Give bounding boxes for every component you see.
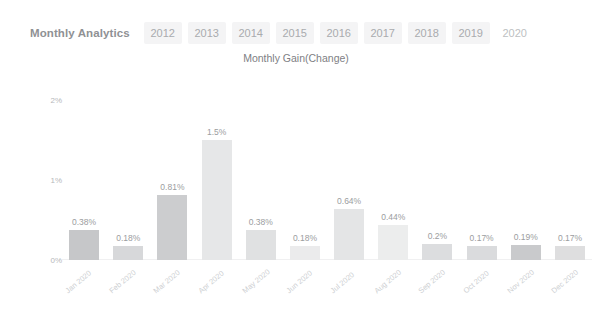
bar-group: 0.18% bbox=[106, 100, 150, 260]
bar[interactable] bbox=[157, 195, 187, 260]
year-tab-2018[interactable]: 2018 bbox=[408, 22, 446, 44]
bar[interactable] bbox=[511, 245, 541, 260]
bar-value-label: 0.19% bbox=[514, 232, 538, 242]
bar[interactable] bbox=[378, 225, 408, 260]
bar-group: 1.5% bbox=[195, 100, 239, 260]
bar-value-label: 0.81% bbox=[160, 182, 184, 192]
year-tab-2020[interactable]: 2020 bbox=[496, 22, 534, 44]
x-axis-label: Jun 2020 bbox=[285, 269, 314, 296]
bar-value-label: 0.18% bbox=[116, 233, 140, 243]
x-axis-label: Feb 2020 bbox=[108, 268, 138, 295]
x-axis-slot: Apr 2020 bbox=[195, 262, 239, 320]
bar-value-label: 0.44% bbox=[381, 212, 405, 222]
plot-area: 0%1%2% 0.38%0.18%0.81%1.5%0.38%0.18%0.64… bbox=[0, 70, 612, 320]
bar-value-label: 0.38% bbox=[249, 217, 273, 227]
x-axis: Jan 2020Feb 2020Mar 2020Apr 2020May 2020… bbox=[62, 262, 592, 320]
x-axis-slot: Jan 2020 bbox=[62, 262, 106, 320]
bar-group: 0.64% bbox=[327, 100, 371, 260]
bar[interactable] bbox=[334, 209, 364, 260]
bar-value-label: 0.17% bbox=[558, 233, 582, 243]
x-axis-label: Dec 2020 bbox=[550, 268, 580, 296]
bar-group: 0.81% bbox=[150, 100, 194, 260]
bar[interactable] bbox=[113, 246, 143, 260]
bar-value-label: 0.2% bbox=[428, 231, 447, 241]
bar[interactable] bbox=[69, 230, 99, 260]
bar-group: 0.2% bbox=[415, 100, 459, 260]
bar-value-label: 0.18% bbox=[293, 233, 317, 243]
bar[interactable] bbox=[290, 246, 320, 260]
bar-value-label: 0.64% bbox=[337, 196, 361, 206]
analytics-page: Monthly Analytics 2012201320142015201620… bbox=[0, 0, 612, 321]
x-axis-slot: Sep 2020 bbox=[415, 262, 459, 320]
year-tab-2017[interactable]: 2017 bbox=[364, 22, 402, 44]
bar-group: 0.44% bbox=[371, 100, 415, 260]
x-axis-label: Sep 2020 bbox=[417, 268, 447, 296]
x-axis-slot: Nov 2020 bbox=[504, 262, 548, 320]
year-tab-2015[interactable]: 2015 bbox=[276, 22, 314, 44]
year-tab-2019[interactable]: 2019 bbox=[452, 22, 490, 44]
header-bar: Monthly Analytics 2012201320142015201620… bbox=[0, 20, 612, 46]
x-axis-label: Nov 2020 bbox=[505, 268, 535, 296]
x-axis-label: Apr 2020 bbox=[196, 269, 225, 295]
bar-value-label: 0.17% bbox=[470, 233, 494, 243]
bar-group: 0.38% bbox=[239, 100, 283, 260]
y-axis-tick: 0% bbox=[50, 256, 62, 265]
bar[interactable] bbox=[422, 244, 452, 260]
x-axis-slot: May 2020 bbox=[239, 262, 283, 320]
bar-group: 0.38% bbox=[62, 100, 106, 260]
y-axis-tick: 1% bbox=[50, 176, 62, 185]
x-axis-label: Aug 2020 bbox=[373, 268, 403, 296]
year-tab-2013[interactable]: 2013 bbox=[188, 22, 226, 44]
x-axis-slot: Mar 2020 bbox=[150, 262, 194, 320]
bar[interactable] bbox=[467, 246, 497, 260]
bar-series: 0.38%0.18%0.81%1.5%0.38%0.18%0.64%0.44%0… bbox=[62, 100, 592, 260]
year-tab-list: 201220132014201520162017201820192020 bbox=[144, 22, 540, 44]
bar-group: 0.19% bbox=[504, 100, 548, 260]
bar-group: 0.17% bbox=[460, 100, 504, 260]
x-axis-label: Jan 2020 bbox=[64, 269, 93, 296]
year-tab-2012[interactable]: 2012 bbox=[144, 22, 182, 44]
x-axis-label: Jul 2020 bbox=[329, 270, 357, 295]
x-axis-slot: Feb 2020 bbox=[106, 262, 150, 320]
y-axis: 0%1%2% bbox=[38, 100, 62, 260]
x-axis-slot: Dec 2020 bbox=[548, 262, 592, 320]
x-axis-label: May 2020 bbox=[240, 267, 271, 295]
x-axis-label: Mar 2020 bbox=[152, 268, 182, 295]
bar-value-label: 1.5% bbox=[207, 127, 226, 137]
bar-group: 0.18% bbox=[283, 100, 327, 260]
chart-title: Monthly Gain(Change) bbox=[0, 52, 612, 64]
x-axis-slot: Oct 2020 bbox=[460, 262, 504, 320]
bar[interactable] bbox=[555, 246, 585, 260]
x-axis-slot: Jun 2020 bbox=[283, 262, 327, 320]
bar-value-label: 0.38% bbox=[72, 217, 96, 227]
y-axis-tick: 2% bbox=[50, 96, 62, 105]
bar[interactable] bbox=[202, 140, 232, 260]
x-axis-slot: Aug 2020 bbox=[371, 262, 415, 320]
bar-group: 0.17% bbox=[548, 100, 592, 260]
page-title: Monthly Analytics bbox=[30, 27, 130, 39]
year-tab-2014[interactable]: 2014 bbox=[232, 22, 270, 44]
bar[interactable] bbox=[246, 230, 276, 260]
x-axis-slot: Jul 2020 bbox=[327, 262, 371, 320]
chart-container: Monthly Gain(Change) 0%1%2% 0.38%0.18%0.… bbox=[0, 48, 612, 321]
x-axis-label: Oct 2020 bbox=[461, 269, 490, 295]
year-tab-2016[interactable]: 2016 bbox=[320, 22, 358, 44]
plot-body: 0.38%0.18%0.81%1.5%0.38%0.18%0.64%0.44%0… bbox=[62, 100, 600, 260]
